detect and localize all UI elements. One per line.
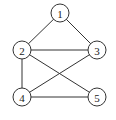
node-label: 2	[19, 45, 25, 57]
graph-diagram: 12345	[0, 0, 116, 120]
node-5: 5	[88, 88, 106, 106]
node-2: 2	[13, 41, 31, 59]
node-label: 5	[94, 92, 100, 104]
edges-layer	[22, 13, 97, 97]
node-label: 3	[94, 45, 100, 57]
node-3: 3	[88, 41, 106, 59]
node-4: 4	[13, 88, 31, 106]
node-label: 4	[19, 92, 25, 104]
node-1: 1	[51, 4, 69, 22]
nodes-layer: 12345	[13, 4, 106, 106]
node-label: 1	[57, 8, 63, 20]
